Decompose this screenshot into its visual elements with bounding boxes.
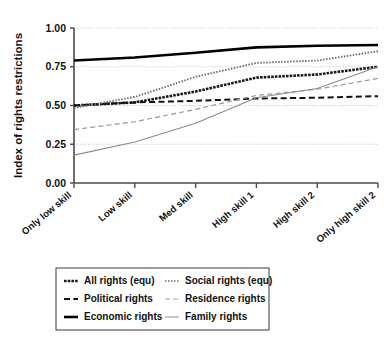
x-axis: Only low skillLow skillMed skillHigh ski…: [19, 183, 378, 245]
legend: All rights (equ)Social rights (equ)Polit…: [56, 268, 272, 330]
y-axis: 0.000.250.500.751.00: [46, 22, 74, 189]
legend-label-social-rights-equ: Social rights (equ): [185, 275, 272, 286]
x-tick-label-1: Low skill: [96, 189, 134, 223]
line-chart: 0.000.250.500.751.00Index of rights rest…: [0, 0, 390, 346]
legend-label-family-rights: Family rights: [185, 311, 248, 322]
series-group: [74, 45, 378, 155]
legend-label-economic-rights: Economic rights: [84, 311, 163, 322]
legend-label-residence-rights: Residence rights: [185, 293, 266, 304]
x-tick-label-2: Med skill: [157, 189, 195, 223]
x-tick-label-4: High skill 2: [271, 189, 317, 230]
y-tick-label-0.25: 0.25: [46, 138, 67, 150]
series-line-family-rights: [74, 67, 378, 155]
y-tick-label-0.75: 0.75: [46, 60, 67, 72]
y-tick-label-0.50: 0.50: [46, 99, 67, 111]
x-tick-label-0: Only low skill: [19, 189, 73, 237]
x-tick-label-3: High skill 1: [210, 189, 256, 230]
y-tick-label-1.00: 1.00: [46, 22, 67, 34]
y-axis-title: Index of rights restrictions: [12, 33, 24, 178]
x-tick-label-5: Only high skill 2: [314, 189, 377, 245]
chart-figure: 0.000.250.500.751.00Index of rights rest…: [0, 0, 390, 346]
legend-label-all-rights-equ: All rights (equ): [84, 275, 155, 286]
y-tick-label-0.00: 0.00: [46, 177, 67, 189]
legend-label-political-rights: Political rights: [84, 293, 153, 304]
